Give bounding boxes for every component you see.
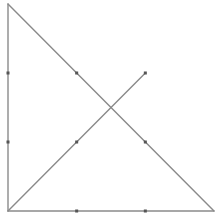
- left-leg-tick-2: [7, 72, 10, 75]
- bottom-leg-tick-2: [144, 210, 147, 213]
- segments-group: [8, 4, 214, 211]
- bottom-leg-tick-1: [75, 210, 78, 213]
- hypotenuse-tick-2: [144, 141, 147, 144]
- diagonal-tick-1: [75, 141, 78, 144]
- left-leg-tick-1: [7, 141, 10, 144]
- hypotenuse-tick-1: [75, 72, 78, 75]
- diagonal-endpoint: [144, 72, 147, 75]
- geometry-diagram: [0, 0, 222, 218]
